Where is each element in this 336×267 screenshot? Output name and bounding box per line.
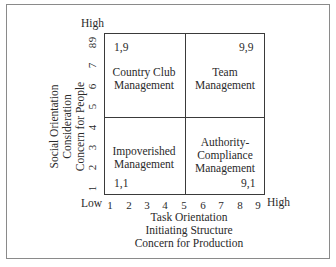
grid-horizontal-divider [104, 117, 265, 118]
x-axis-high-label: High [267, 196, 290, 209]
x-axis-title-line-3: Concern for Production [104, 237, 274, 250]
quadrant-label-line: Country Club [104, 66, 184, 79]
quadrant-coord-9-9: 9,9 [239, 41, 253, 54]
quadrant-label-line: Team [185, 66, 265, 79]
y-tick-7: 7 [87, 61, 98, 71]
x-tick-8: 8 [235, 200, 245, 211]
x-axis-title: Task Orientation Initiating Structure Co… [104, 211, 274, 250]
quadrant-team: Team Management [185, 66, 265, 92]
y-tick-4: 4 [87, 123, 98, 133]
y-axis-title: Social Orientation Consideration Concern… [48, 42, 87, 212]
y-tick-3: 3 [87, 143, 98, 153]
y-tick-9: 9 [87, 35, 98, 45]
y-axis-title-line-1: Social Orientation [48, 42, 61, 212]
y-tick-1: 1 [87, 184, 98, 194]
quadrant-label-line: Authority- [185, 136, 265, 149]
x-tick-7: 7 [216, 200, 226, 211]
quadrant-authority-compliance: Authority- Compliance Management [185, 136, 265, 175]
quadrant-coord-9-1: 9,1 [241, 177, 255, 190]
quadrant-label-line: Compliance [185, 149, 265, 162]
quadrant-impoverished: Impoverished Management [104, 145, 184, 171]
y-axis-high-label: High [81, 17, 104, 30]
x-tick-5: 5 [179, 200, 189, 211]
y-tick-5: 5 [87, 102, 98, 112]
quadrant-label-line: Management [185, 162, 265, 175]
quadrant-label-line: Management [185, 79, 265, 92]
y-tick-2: 2 [87, 163, 98, 173]
x-tick-4: 4 [160, 200, 170, 211]
quadrant-coord-1-1: 1,1 [114, 177, 128, 190]
x-tick-1: 1 [105, 200, 115, 211]
quadrant-label-line: Impoverished [104, 145, 184, 158]
y-axis-title-line-3: Concern for People [74, 42, 87, 212]
x-tick-2: 2 [124, 200, 134, 211]
x-tick-3: 3 [142, 200, 152, 211]
y-tick-6: 6 [87, 82, 98, 92]
quadrant-label-line: Management [104, 79, 184, 92]
x-tick-6: 6 [198, 200, 208, 211]
x-tick-9: 9 [253, 200, 263, 211]
x-axis-title-line-1: Task Orientation [104, 211, 274, 224]
x-axis-title-line-2: Initiating Structure [104, 224, 274, 237]
quadrant-country-club: Country Club Management [104, 66, 184, 92]
y-axis-title-line-2: Consideration [61, 42, 74, 212]
quadrant-label-line: Management [104, 158, 184, 171]
quadrant-coord-1-9: 1,9 [114, 41, 128, 54]
